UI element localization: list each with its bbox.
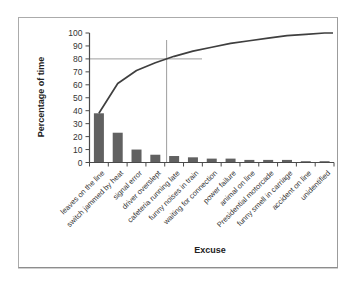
y-tick-label: 60: [73, 80, 83, 90]
cumulative-line: [99, 33, 333, 113]
bar: [94, 113, 104, 162]
y-tick-label: 80: [73, 54, 83, 64]
y-tick-label: 10: [73, 145, 83, 155]
y-tick-label: 40: [73, 106, 83, 116]
y-tick-label: 30: [73, 119, 83, 129]
bar: [132, 150, 142, 163]
y-tick-label: 50: [73, 93, 83, 103]
bar: [188, 157, 198, 162]
y-tick-label: 70: [73, 67, 83, 77]
x-axis-title: Excuse: [194, 245, 226, 255]
y-tick-label: 20: [73, 132, 83, 142]
y-axis-title: Percentage of time: [36, 57, 46, 138]
y-tick-label: 100: [68, 28, 82, 38]
y-tick-label: 90: [73, 41, 83, 51]
bar: [113, 133, 123, 163]
axes: [90, 33, 335, 163]
bar: [150, 155, 160, 163]
y-tick-label: 0: [78, 158, 83, 168]
bar: [169, 156, 179, 162]
pareto-chart: 0102030405060708090100leaves on the line…: [0, 0, 356, 288]
